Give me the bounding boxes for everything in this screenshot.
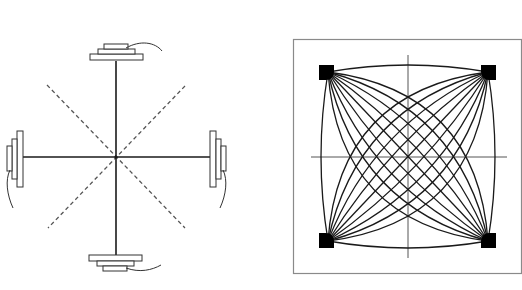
transducer-left	[7, 131, 23, 208]
figure-canvas	[0, 0, 522, 290]
transducer-right	[210, 131, 226, 208]
center-point	[114, 155, 117, 158]
transducer-bottom	[89, 255, 161, 271]
transducer-top	[90, 43, 162, 60]
left-panel-diagram	[7, 43, 226, 271]
right-panel-diagram	[294, 40, 522, 274]
